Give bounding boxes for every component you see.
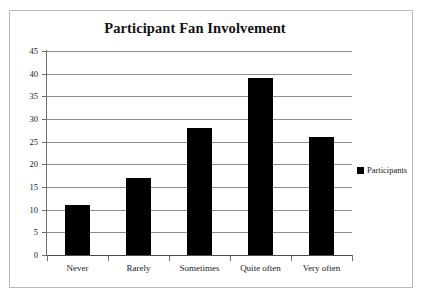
bar [309,137,334,255]
y-axis-label: 15 [12,183,38,192]
y-axis-tick [42,142,47,143]
chart-title: Participant Fan Involvement [40,20,350,37]
x-axis-tick [169,256,170,261]
y-axis-tick [42,210,47,211]
y-axis-label: 20 [12,160,38,169]
y-axis-label: 35 [12,92,38,101]
y-axis-label: 0 [12,251,38,260]
y-axis-label: 45 [12,47,38,56]
y-axis-tick [42,96,47,97]
x-axis-tick [230,256,231,261]
y-axis-tick [42,232,47,233]
x-axis-label: Quite often [230,263,291,273]
y-axis-label: 30 [12,115,38,124]
x-axis-label: Very often [291,263,352,273]
legend-swatch-icon [357,167,364,174]
y-axis-tick [42,51,47,52]
x-axis-label: Sometimes [169,263,230,273]
y-axis-label: 5 [12,228,38,237]
gridline [47,255,352,256]
bar [187,128,212,255]
plot-area [47,51,352,255]
y-axis-label: 40 [12,70,38,79]
bar [248,78,273,255]
bar [65,205,90,255]
x-axis-label: Rarely [108,263,169,273]
y-axis-label: 10 [12,206,38,215]
x-axis-tick [47,256,48,261]
bar-series-participants [47,51,352,255]
y-axis-tick [42,119,47,120]
y-axis-tick [42,187,47,188]
bar [126,178,151,255]
y-axis-label: 25 [12,138,38,147]
legend-label-participants: Participants [367,165,407,175]
x-axis-tick [352,256,353,261]
chart-figure: Participant Fan Involvement Participants… [0,0,425,300]
x-axis-tick [108,256,109,261]
x-axis-label: Never [47,263,108,273]
chart-legend: Participants [357,165,407,175]
y-axis-tick [42,164,47,165]
x-axis-tick [291,256,292,261]
y-axis-tick [42,74,47,75]
